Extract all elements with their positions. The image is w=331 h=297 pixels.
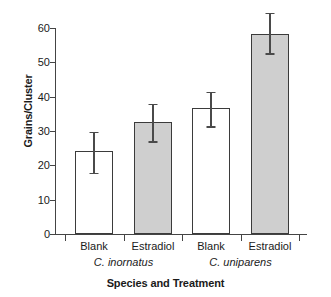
y-tick-mark — [50, 28, 55, 29]
bar-chart-figure: Grains/Cluster 0102030405060 Species and… — [0, 0, 331, 297]
y-tick-label: 10 — [28, 194, 50, 205]
error-bar-cap-lower — [149, 141, 158, 143]
y-axis-line — [55, 28, 56, 235]
group-label-2: C. uniparens — [209, 256, 271, 268]
y-tick-mark — [50, 97, 55, 98]
error-bar-line — [152, 104, 153, 141]
y-tick-label: 60 — [28, 23, 50, 34]
error-bar-cap-upper — [90, 132, 99, 134]
y-tick-mark — [50, 131, 55, 132]
error-bar-cap-upper — [149, 104, 158, 106]
error-bar-line — [93, 132, 94, 173]
error-bar-cap-lower — [90, 173, 99, 175]
plot-area — [55, 28, 307, 234]
x-tick-label: Blank — [80, 240, 108, 252]
group-label-1: C. inornatus — [94, 256, 153, 268]
y-tick-label: 30 — [28, 126, 50, 137]
x-tick-label: Blank — [197, 240, 225, 252]
y-tick-mark — [50, 165, 55, 166]
error-bar-cap-upper — [207, 92, 216, 94]
x-tick-mark — [124, 235, 125, 241]
y-tick-mark — [50, 200, 55, 201]
y-tick-label: 40 — [28, 91, 50, 102]
y-tick-label: 50 — [28, 57, 50, 68]
error-bar-line — [269, 13, 270, 54]
bar-cuniparens-estradiol — [251, 34, 289, 234]
y-tick-label: 20 — [28, 160, 50, 171]
y-tick-label: 0 — [28, 229, 50, 240]
error-bar-cap-lower — [207, 126, 216, 128]
x-tick-label: Estradiol — [132, 240, 175, 252]
x-tick-label: Estradiol — [249, 240, 292, 252]
x-axis-line — [55, 234, 307, 235]
y-tick-mark — [50, 234, 55, 235]
x-tick-mark — [65, 235, 66, 241]
x-tick-mark — [241, 235, 242, 241]
x-tick-mark — [182, 235, 183, 241]
error-bar-line — [210, 92, 211, 127]
error-bar-cap-upper — [266, 13, 275, 15]
x-tick-mark — [299, 235, 300, 241]
y-tick-mark — [50, 62, 55, 63]
error-bar-cap-lower — [266, 53, 275, 55]
y-axis-tick-labels: 0102030405060 — [28, 0, 50, 297]
x-axis-title: Species and Treatment — [0, 277, 331, 289]
